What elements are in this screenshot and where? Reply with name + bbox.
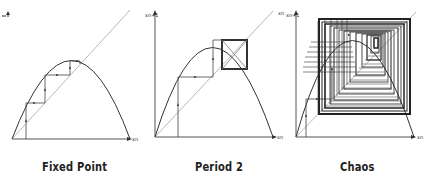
cobweb-plot-chaos [290, 0, 436, 183]
chaos-nested-squares [319, 19, 410, 114]
caption-fixed-point: Fixed Point [42, 159, 107, 174]
x-axis-label: xn [132, 136, 138, 142]
panel-fixed-point: xn Fixed Point [0, 0, 145, 183]
chaos-horizontal-lines [326, 52, 404, 106]
diagonal-line [12, 10, 130, 139]
cobweb-path [26, 61, 80, 139]
cobweb-plot-period-2 [145, 0, 290, 183]
x-axis-label: xn [417, 134, 423, 140]
logistic-curve [155, 48, 273, 138]
caption-period-2: Period 2 [195, 159, 243, 174]
caption-chaos: Chaos [340, 159, 375, 174]
y-axis-label: xn+1 [286, 12, 300, 18]
y-axis-label: xn+1 [145, 12, 159, 18]
y-axis-arrow-icon [2, 11, 10, 17]
diagonal-line [155, 11, 273, 137]
logistic-curve [12, 61, 130, 140]
cycle-box-diagonals [222, 40, 247, 69]
panel-chaos: xn+1 xn Chaos [290, 0, 436, 183]
panel-period-2: xn+1 xn xn Period 2 [145, 0, 290, 183]
diagonal-label: xn [278, 10, 284, 16]
x-axis-label: xn [277, 134, 283, 140]
cobweb-plot-fixed-point [0, 0, 145, 183]
